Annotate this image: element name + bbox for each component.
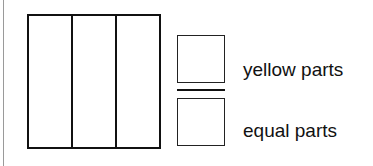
- fraction-bar: [177, 89, 225, 91]
- rectangle-divided-into-three: [27, 14, 161, 149]
- denominator-answer-box[interactable]: [177, 98, 225, 146]
- numerator-answer-box[interactable]: [177, 35, 225, 83]
- rectangle-part-3: [115, 16, 159, 147]
- numerator-label: yellow parts: [243, 59, 343, 81]
- rectangle-part-1: [29, 16, 71, 147]
- denominator-label: equal parts: [243, 120, 337, 142]
- rectangle-part-2: [71, 16, 115, 147]
- margin-rule: [3, 0, 4, 166]
